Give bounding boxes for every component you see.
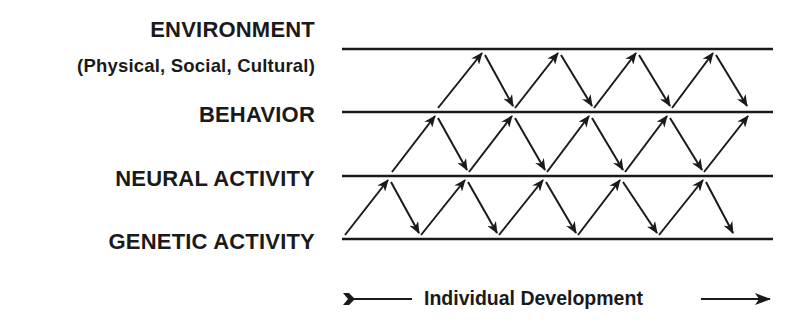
downward-arrow-genetic-neural (546, 182, 576, 233)
downward-arrow-behavior-environment (485, 55, 513, 106)
downward-arrow-behavior-environment (561, 55, 592, 106)
downward-arrow-behavior-environment (639, 55, 670, 106)
upward-arrow-behavior-environment (438, 53, 482, 108)
downward-arrow-genetic-neural (391, 182, 419, 233)
upward-arrow-behavior-environment (515, 53, 558, 108)
downward-arrow-genetic-neural (468, 182, 497, 233)
upward-arrow-genetic-neural (499, 180, 543, 235)
development-diagram (0, 0, 794, 330)
upward-arrow-neural-behavior (392, 116, 435, 172)
upward-arrow-neural-behavior (625, 116, 667, 172)
upward-arrow-behavior-environment (672, 53, 713, 108)
downward-arrow-genetic-neural (706, 182, 733, 233)
upward-arrow-neural-behavior (704, 116, 748, 172)
downward-arrow-behavior-environment (716, 55, 747, 106)
upward-arrow-neural-behavior (547, 116, 589, 172)
development-axis-label: Individual Development (424, 287, 643, 310)
upward-arrow-behavior-environment (594, 53, 636, 108)
downward-arrow-neural-behavior (515, 118, 545, 170)
downward-arrow-neural-behavior (438, 118, 467, 170)
upward-arrow-genetic-neural (421, 180, 465, 235)
upward-arrow-genetic-neural (345, 180, 388, 235)
downward-arrow-neural-behavior (592, 118, 623, 170)
upward-arrow-genetic-neural (659, 180, 703, 235)
downward-arrow-neural-behavior (670, 118, 702, 170)
upward-arrow-genetic-neural (578, 180, 620, 235)
upward-arrow-neural-behavior (469, 116, 512, 172)
downward-arrow-genetic-neural (623, 182, 657, 233)
